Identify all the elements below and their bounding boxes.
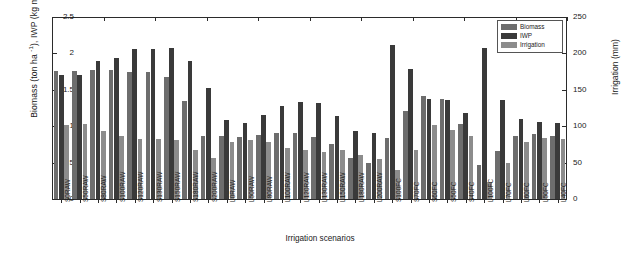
bar-group <box>440 17 455 199</box>
y-tick-label-right: 250 <box>573 13 613 21</box>
bar-group <box>72 17 87 199</box>
legend-swatch <box>501 24 517 30</box>
x-tick-mark <box>539 199 540 203</box>
x-tick-label: S50FC <box>450 182 457 202</box>
chart-figure: Biomass (ton ha -1), IWP (kg m -3) Irrig… <box>0 0 640 263</box>
bar-biomass <box>329 144 334 199</box>
bar-biomass <box>477 165 482 199</box>
legend-item: IWP <box>501 32 559 40</box>
bar-iwp <box>298 102 303 199</box>
legend-label: Biomass <box>520 23 545 30</box>
x-tick-mark <box>172 199 173 203</box>
x-tick-mark <box>411 199 412 203</box>
x-tick-label: L60FC <box>523 182 530 202</box>
x-tick-label: L0RAW <box>229 180 236 202</box>
x-tick-mark <box>447 199 448 203</box>
bar-group <box>477 17 492 199</box>
x-tick-mark <box>282 199 283 203</box>
x-tick-label: S60FC <box>431 182 438 202</box>
bar-biomass <box>440 99 445 199</box>
bar-biomass <box>385 138 390 199</box>
x-tick-mark <box>61 199 62 203</box>
bar-biomass <box>513 136 518 199</box>
bar-group <box>458 17 473 199</box>
bar-group <box>403 17 418 199</box>
bar-biomass <box>403 111 408 199</box>
x-tick-label: L200RAW <box>376 172 383 202</box>
x-tick-mark <box>521 199 522 203</box>
bar-iwp <box>408 69 413 199</box>
bar-biomass <box>458 124 463 199</box>
x-tick-label: L50FC <box>542 182 549 202</box>
x-tick-mark <box>245 199 246 203</box>
bar-group <box>54 17 69 199</box>
y-tick-label-right: 200 <box>573 49 613 57</box>
x-tick-label: L80RAW <box>266 176 273 202</box>
bar-biomass <box>182 101 187 199</box>
bar-group <box>90 17 105 199</box>
x-tick-mark <box>98 199 99 203</box>
top-tick-mark <box>567 17 568 21</box>
x-tick-label: L40FC <box>560 182 567 202</box>
x-tick-mark <box>227 199 228 203</box>
bar-group <box>421 17 436 199</box>
legend-label: IWP <box>520 32 532 39</box>
x-tick-label: L150RAW <box>339 172 346 202</box>
bar-iwp <box>390 45 395 199</box>
chart-legend: BiomassIWPIrrigation <box>497 20 563 53</box>
x-tick-mark <box>558 199 559 203</box>
bar-iwp <box>243 123 248 199</box>
bar-biomass <box>201 136 206 199</box>
x-tick-mark <box>503 199 504 203</box>
x-axis-tick-labels: S0RAWS50RAWS80RAWS100RAWS120RAWS130RAWS1… <box>52 202 567 232</box>
bar-biomass <box>274 133 279 199</box>
bar-iwp <box>114 58 119 199</box>
bar-biomass <box>550 136 555 199</box>
x-tick-label: L50RAW <box>248 176 255 202</box>
bar-biomass <box>495 151 500 199</box>
bar-biomass <box>219 136 224 199</box>
bar-biomass <box>293 133 298 199</box>
bar-group <box>385 17 400 199</box>
bar-biomass <box>311 137 316 199</box>
x-tick-label: L100RAW <box>284 172 291 202</box>
y-tick-label-right: 50 <box>573 159 613 167</box>
x-tick-mark <box>80 199 81 203</box>
bar-biomass <box>109 70 114 199</box>
x-tick-label: S150RAW <box>174 172 181 202</box>
x-tick-mark <box>153 199 154 203</box>
x-tick-label: L180RAW <box>358 172 365 202</box>
legend-label: Irrigation <box>520 41 545 48</box>
bar-iwp <box>151 49 156 199</box>
x-tick-mark <box>135 199 136 203</box>
bar-group <box>256 17 271 199</box>
x-axis-title: Irrigation scenarios <box>0 234 640 243</box>
x-tick-label: S180RAW <box>192 172 199 202</box>
bar-biomass <box>54 71 59 199</box>
x-tick-label: S120RAW <box>137 172 144 202</box>
bar-biomass <box>164 77 169 199</box>
legend-item: Irrigation <box>501 41 559 49</box>
bar-biomass <box>256 135 261 199</box>
legend-swatch <box>501 33 517 39</box>
x-tick-label: S40FC <box>468 182 475 202</box>
bar-iwp <box>206 88 211 199</box>
x-tick-mark <box>264 199 265 203</box>
bar-biomass <box>421 96 426 199</box>
bar-biomass <box>72 71 77 199</box>
x-tick-mark <box>337 199 338 203</box>
y-tick-label-right: 100 <box>573 122 613 130</box>
bar-iwp <box>59 75 64 199</box>
y-tick-mark-left <box>52 199 57 200</box>
x-tick-label: L120RAW <box>303 172 310 202</box>
x-tick-label: S80RAW <box>100 175 107 202</box>
bar-biomass <box>237 137 242 199</box>
x-tick-label: S0RAW <box>64 179 71 202</box>
x-tick-mark <box>319 199 320 203</box>
x-tick-label: S50RAW <box>82 175 89 202</box>
legend-swatch <box>501 42 517 48</box>
x-tick-mark <box>355 199 356 203</box>
x-tick-mark <box>190 199 191 203</box>
x-tick-label: L100FC <box>487 179 494 202</box>
bar-biomass <box>90 70 95 199</box>
